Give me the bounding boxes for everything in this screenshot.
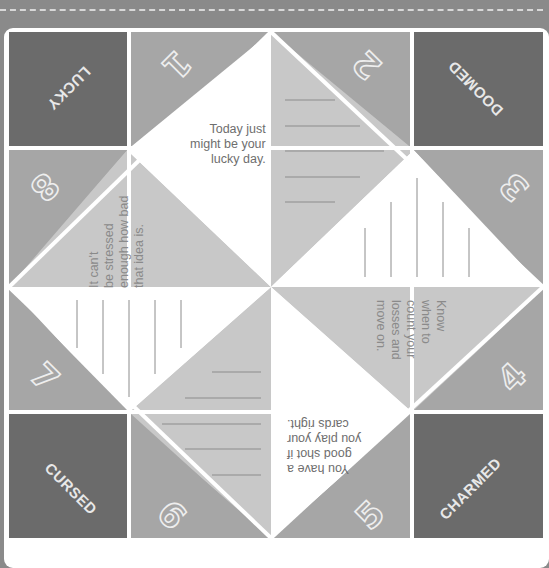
fortune-left: It can't be stressed enough how bad that… [87, 196, 147, 288]
fortune-right: Know when to count your losses and move … [373, 300, 448, 360]
fortune-top: Today just might be your lucky day. [190, 122, 266, 167]
fortune-bottom: You have a good shot if you play your ca… [287, 416, 361, 476]
